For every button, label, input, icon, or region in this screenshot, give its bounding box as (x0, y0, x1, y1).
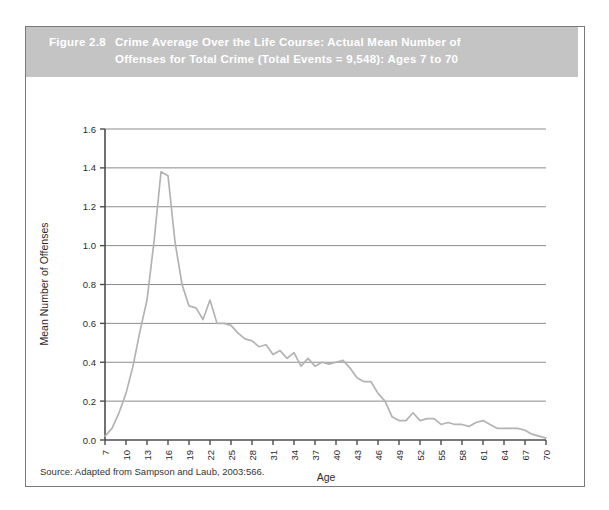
figure-caption-line2: Offenses for Total Crime (Total Events =… (115, 53, 458, 65)
figure-title-text: Figure 2.8Crime Average Over the Life Co… (49, 34, 564, 68)
x-tick-label: 58 (457, 450, 468, 461)
x-tick-label: 34 (289, 450, 300, 461)
y-tick-label: 1.4 (83, 162, 96, 173)
figure-caption-line1: Crime Average Over the Life Course: Actu… (115, 36, 461, 48)
x-tick-label: 25 (226, 450, 237, 461)
x-tick-label: 52 (415, 450, 426, 461)
x-axis-ticks: 7101316192225283134374043464952555861646… (100, 440, 552, 461)
y-tick-label: 0.6 (83, 318, 96, 329)
x-tick-label: 37 (310, 450, 321, 461)
x-tick-label: 16 (163, 450, 174, 461)
x-axis-title: Age (317, 471, 336, 483)
y-tick-label: 0.0 (83, 435, 96, 446)
x-tick-label: 43 (352, 450, 363, 461)
x-tick-label: 19 (184, 450, 195, 461)
figure-source-note: Source: Adapted from Sampson and Laub, 2… (40, 466, 264, 477)
y-tick-label: 0.2 (83, 396, 96, 407)
x-tick-label: 61 (478, 450, 489, 461)
figure-frame: Figure 2.8Crime Average Over the Life Co… (25, 26, 585, 487)
x-tick-label: 31 (268, 450, 279, 461)
gridlines (105, 129, 546, 401)
x-tick-label: 22 (205, 450, 216, 461)
x-tick-label: 67 (520, 450, 531, 461)
y-axis-ticks: 0.00.20.40.60.81.01.21.41.6 (83, 124, 105, 446)
x-tick-label: 7 (100, 450, 111, 455)
x-tick-label: 46 (373, 450, 384, 461)
y-tick-label: 1.6 (83, 124, 96, 135)
y-tick-label: 1.0 (83, 240, 96, 251)
figure-title-band: Figure 2.8Crime Average Over the Life Co… (26, 27, 578, 77)
y-axis-title: Mean Number of Offenses (38, 223, 50, 346)
x-tick-label: 70 (541, 450, 552, 461)
x-tick-label: 13 (142, 450, 153, 461)
x-tick-label: 49 (394, 450, 405, 461)
figure-number-label: Figure 2.8 (49, 34, 115, 51)
x-tick-label: 10 (121, 450, 132, 461)
x-tick-label: 40 (331, 450, 342, 461)
y-tick-label: 0.4 (83, 357, 96, 368)
x-tick-label: 55 (436, 450, 447, 461)
x-tick-label: 28 (247, 450, 258, 461)
y-tick-label: 0.8 (83, 279, 96, 290)
y-tick-label: 1.2 (83, 201, 96, 212)
x-tick-label: 64 (499, 450, 510, 461)
series-line-total-crime (105, 172, 546, 438)
line-chart: 0.00.20.40.60.81.01.21.41.6 710131619222… (26, 77, 584, 486)
plot-area: 0.00.20.40.60.81.01.21.41.6 710131619222… (26, 77, 584, 486)
